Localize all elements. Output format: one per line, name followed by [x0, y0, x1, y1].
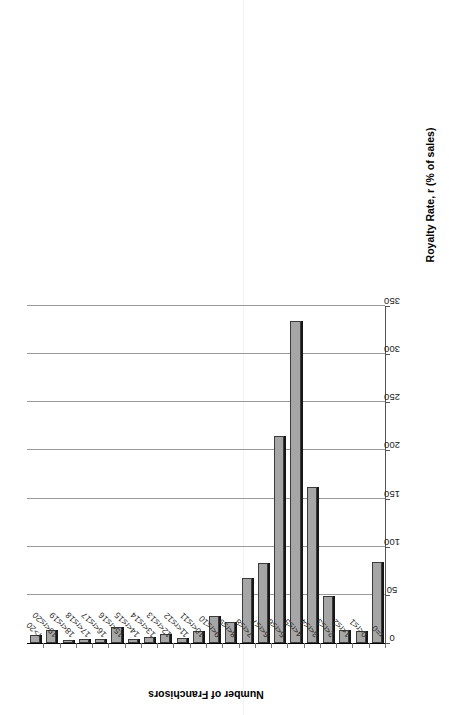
plot-area [27, 306, 385, 644]
category-tick [239, 643, 240, 648]
value-tick-label: 300 [384, 344, 400, 355]
value-tick-label: 100 [384, 537, 400, 548]
category-tick [369, 643, 370, 648]
category-tick [43, 643, 44, 648]
bar-row [242, 306, 252, 643]
bar-row [111, 306, 121, 643]
value-tick-label: 50 [387, 585, 398, 596]
bar-row [339, 306, 349, 643]
bar-row [356, 306, 366, 643]
value-tick-label: 200 [384, 440, 400, 451]
bar-row [79, 306, 89, 643]
category-tick [255, 643, 256, 648]
bar-row [258, 306, 268, 643]
bar-row [225, 306, 235, 643]
rotated-page-wrapper: 050100150200250300350 r=00<r≤11<r≤22<r≤3… [0, 0, 449, 715]
value-tick-label: 0 [389, 633, 394, 644]
category-tick [336, 643, 337, 648]
category-tick [157, 643, 158, 648]
value-tick-label: 250 [384, 392, 400, 403]
value-tick-label: 150 [384, 489, 400, 500]
bar-row [95, 306, 105, 643]
bar [177, 638, 187, 643]
bar-row [307, 306, 317, 643]
y-axis-title: Number of Franchisors [148, 689, 264, 701]
category-tick [92, 643, 93, 648]
category-tick [190, 643, 191, 648]
bar-row [290, 306, 300, 643]
bar-row [372, 306, 382, 643]
bar [95, 639, 105, 643]
value-tick-label: 350 [384, 296, 400, 307]
bar-row [160, 306, 170, 643]
bar-row [323, 306, 333, 643]
bar [128, 639, 138, 643]
bar-row [63, 306, 73, 643]
x-axis-title: Royalty Rate, r (% of sales) [424, 128, 436, 263]
bar-row [274, 306, 284, 643]
histogram-figure: 050100150200250300350 r=00<r≤11<r≤22<r≤3… [0, 0, 449, 715]
category-tick [141, 643, 142, 648]
category-tick [222, 643, 223, 648]
bar-row [30, 306, 40, 643]
bar [290, 321, 300, 643]
category-tick [320, 643, 321, 648]
category-tick [108, 643, 109, 648]
category-tick [206, 643, 207, 648]
category-tick [60, 643, 61, 648]
category-tick [76, 643, 77, 648]
bar [63, 641, 73, 644]
bar [79, 639, 89, 643]
bar-row [209, 306, 219, 643]
bar-row [46, 306, 56, 643]
bar-row [144, 306, 154, 643]
category-tick [287, 643, 288, 648]
bar-row [128, 306, 138, 643]
category-tick [173, 643, 174, 648]
bar-row [193, 306, 203, 643]
bar-row [177, 306, 187, 643]
category-tick [304, 643, 305, 648]
bar [274, 436, 284, 643]
category-tick [352, 643, 353, 648]
category-tick [125, 643, 126, 648]
category-tick [271, 643, 272, 648]
